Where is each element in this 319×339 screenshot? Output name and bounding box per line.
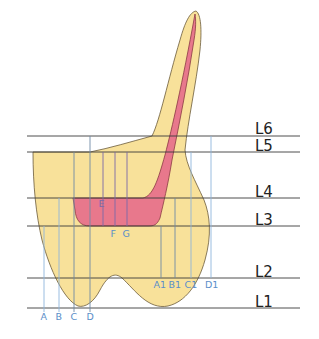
level-label-l6: L6 — [255, 120, 273, 138]
level-label-l4: L4 — [255, 183, 273, 201]
tooth-body — [33, 11, 209, 307]
tooth-diagram: L6 L5 L4 L3 L2 L1 A B C D E F G A1 B1 C1… — [0, 0, 319, 339]
point-label-b: B — [56, 311, 63, 322]
point-label-c1: C1 — [185, 279, 198, 290]
point-label-c: C — [71, 311, 78, 322]
level-label-l1: L1 — [255, 293, 273, 311]
point-label-e: E — [99, 198, 105, 209]
point-label-b1: B1 — [169, 279, 182, 290]
level-label-l5: L5 — [255, 137, 273, 155]
point-label-f: F — [111, 228, 116, 239]
level-label-l3: L3 — [255, 211, 273, 229]
point-label-a1: A1 — [154, 279, 167, 290]
point-label-d: D — [87, 311, 94, 322]
level-label-l2: L2 — [255, 263, 273, 281]
point-label-a: A — [41, 311, 48, 322]
point-label-d1: D1 — [205, 279, 218, 290]
level-labels: L6 L5 L4 L3 L2 L1 — [255, 120, 273, 311]
point-label-g: G — [123, 228, 130, 239]
